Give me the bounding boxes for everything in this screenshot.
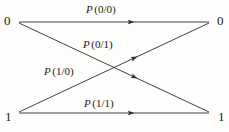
edge-label-arguments: (0/1) [91, 38, 112, 50]
edge-label-variable: P [83, 38, 91, 50]
node-output-1: 1 [218, 110, 225, 123]
channel-diagram: 0 0 1 1 P(0/0) P(0/1) P(1/0) P(1/1) [0, 0, 229, 132]
node-input-1: 1 [5, 110, 12, 123]
edge-label-variable: P [44, 65, 52, 77]
node-input-0: 0 [4, 14, 11, 27]
edge-label-arguments: (1/1) [92, 97, 113, 109]
diagram-canvas [0, 0, 229, 132]
node-output-0: 0 [217, 14, 224, 27]
edge-label-0-to-1: P(1/0) [44, 65, 74, 77]
edge-label-0-to-0: P(0/0) [86, 3, 116, 15]
edge-label-arguments: (1/0) [52, 65, 73, 77]
edge-label-variable: P [86, 3, 94, 15]
edge-label-arguments: (0/0) [94, 3, 115, 15]
edge-label-1-to-0: P(0/1) [83, 38, 113, 50]
edge-label-1-to-1: P(1/1) [84, 97, 114, 109]
edge-label-variable: P [84, 97, 92, 109]
